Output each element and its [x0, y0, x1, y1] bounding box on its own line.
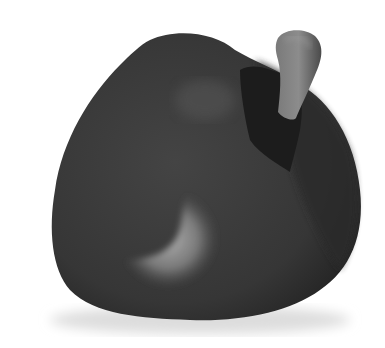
pepper-photo [0, 0, 385, 348]
